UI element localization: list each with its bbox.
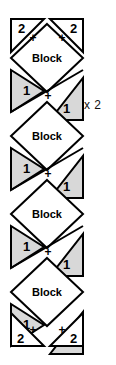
plus-mark-bottom-right: + xyxy=(58,323,65,337)
triangle-label-1-left: 1 xyxy=(23,83,30,98)
triangle-label-2-left: 1 xyxy=(23,161,30,176)
triangle-label-3-right: 1 xyxy=(63,257,70,272)
plus-mark-top-right: + xyxy=(58,31,65,45)
plus-mark-bottom-left: + xyxy=(29,323,36,337)
corner-label-bottom-right: 2 xyxy=(70,331,77,346)
block-label-1: Block xyxy=(32,52,63,64)
repeat-annotation: x 2 xyxy=(84,98,102,112)
triangle-label-3-left: 1 xyxy=(23,239,30,254)
block-label-2: Block xyxy=(32,130,63,142)
plus-mark-pair-3: + xyxy=(44,245,51,259)
corner-label-bottom-left: 2 xyxy=(17,331,24,346)
triangle-label-1-right: 1 xyxy=(63,101,70,116)
plus-mark-pair-1: + xyxy=(44,89,51,103)
plus-mark-top-left: + xyxy=(29,31,36,45)
triangle-label-2-right: 1 xyxy=(63,179,70,194)
plus-mark-pair-2: + xyxy=(44,167,51,181)
quilt-assembly-diagram: 2 2 1 1 Block 1 1 Block xyxy=(0,0,116,365)
block-label-3: Block xyxy=(32,208,63,220)
corner-label-top-left: 2 xyxy=(18,21,25,36)
block-label-4: Block xyxy=(32,286,63,298)
diagram-canvas: 2 2 1 1 Block 1 1 Block xyxy=(0,0,116,365)
corner-label-top-right: 2 xyxy=(70,21,77,36)
